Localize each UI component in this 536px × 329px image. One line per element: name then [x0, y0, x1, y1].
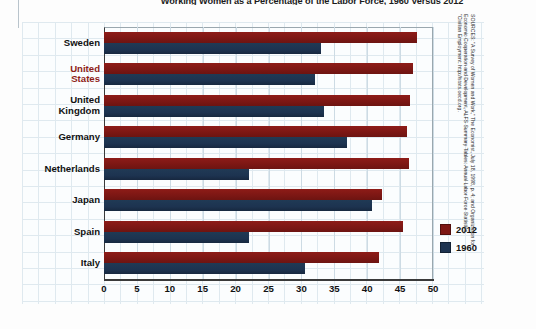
bar-group — [104, 252, 433, 274]
x-tick-30: 30 — [288, 283, 314, 294]
bar-2012 — [104, 63, 413, 74]
x-tick-35: 35 — [321, 283, 347, 294]
x-tick-50: 50 — [420, 283, 446, 294]
source-note: SOURCES: "A Survey of Women and Work," T… — [446, 14, 476, 306]
source-line-3: "Civilian Employment: http://stats.oecd.… — [456, 14, 463, 306]
bar-2012 — [104, 189, 382, 200]
x-tick-40: 40 — [354, 283, 380, 294]
bar-group — [104, 95, 433, 117]
bar-1960 — [104, 137, 347, 148]
gridline-x-50 — [433, 27, 434, 279]
category-label-japan: Japan — [4, 195, 100, 206]
bar-2012 — [104, 221, 403, 232]
x-axis-line — [104, 279, 434, 281]
category-label-spain: Spain — [4, 227, 100, 238]
bar-1960 — [104, 169, 249, 180]
bar-1960 — [104, 74, 315, 85]
bar-2012 — [104, 32, 417, 43]
bar-1960 — [104, 43, 321, 54]
page-title: Working Women as a Percentage of the Lab… — [132, 0, 492, 5]
bar-2012 — [104, 95, 410, 106]
bar-group — [104, 189, 433, 211]
bar-1960 — [104, 232, 249, 243]
bar-2012 — [104, 126, 407, 137]
x-tick-10: 10 — [157, 283, 183, 294]
bar-group — [104, 221, 433, 243]
bar-group — [104, 126, 433, 148]
source-line-2: Economic Cooperation and Development, AL… — [463, 14, 470, 306]
x-tick-25: 25 — [256, 283, 282, 294]
chart-page: Working Women as a Percentage of the Lab… — [0, 0, 536, 329]
x-tick-0: 0 — [91, 283, 117, 294]
bar-2012 — [104, 252, 379, 263]
x-tick-5: 5 — [124, 283, 150, 294]
margin-rule — [18, 0, 19, 28]
category-label-netherlands: Netherlands — [4, 164, 100, 175]
bar-1960 — [104, 200, 372, 211]
source-line-1: SOURCES: "A Survey of Women and Work," T… — [469, 14, 476, 306]
bar-group — [104, 158, 433, 180]
bar-1960 — [104, 263, 305, 274]
category-label-united-kingdom: United Kingdom — [4, 95, 100, 116]
x-tick-45: 45 — [387, 283, 413, 294]
bar-2012 — [104, 158, 409, 169]
x-tick-20: 20 — [223, 283, 249, 294]
category-label-italy: Italy — [4, 258, 100, 269]
bar-1960 — [104, 106, 324, 117]
x-tick-15: 15 — [190, 283, 216, 294]
category-label-united-states: United States — [4, 64, 100, 85]
plot-area — [104, 27, 433, 279]
bar-group — [104, 63, 433, 85]
bar-group — [104, 32, 433, 54]
category-label-germany: Germany — [4, 132, 100, 143]
category-label-sweden: Sweden — [4, 38, 100, 49]
